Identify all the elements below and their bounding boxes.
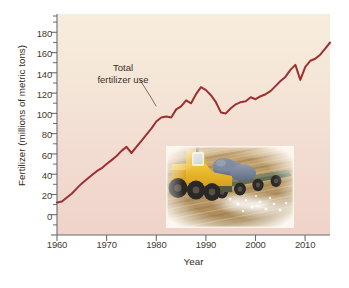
y-axis-title: Fertilizer (millions of metric tons) <box>16 21 27 211</box>
y-tick-40: 40 <box>26 171 52 181</box>
x-axis-title: Year <box>57 256 330 267</box>
y-tick-60: 60 <box>26 151 52 161</box>
y-tick-180: 180 <box>26 29 52 39</box>
series-annotation-label: Total fertilizer use <box>80 62 166 85</box>
y-tick-80: 80 <box>26 130 52 140</box>
inset-photo-fertilizer-tractor <box>150 132 322 246</box>
x-tick-2010: 2010 <box>285 239 325 250</box>
x-tick-1970: 1970 <box>87 239 127 250</box>
y-tick-20: 20 <box>26 191 52 201</box>
y-axis-minor-ticks <box>53 16 57 225</box>
x-tick-2000: 2000 <box>236 239 276 250</box>
y-tick-140: 140 <box>26 70 52 80</box>
x-tick-1980: 1980 <box>136 239 176 250</box>
x-tick-1990: 1990 <box>186 239 226 250</box>
x-tick-1960: 1960 <box>37 239 77 250</box>
y-tick-0: 0 <box>26 212 52 222</box>
chart-figure: 180 160 140 120 100 80 60 40 20 0 1960 1… <box>0 0 349 288</box>
y-tick-100: 100 <box>26 110 52 120</box>
y-tick-160: 160 <box>26 49 52 59</box>
y-tick-120: 120 <box>26 90 52 100</box>
